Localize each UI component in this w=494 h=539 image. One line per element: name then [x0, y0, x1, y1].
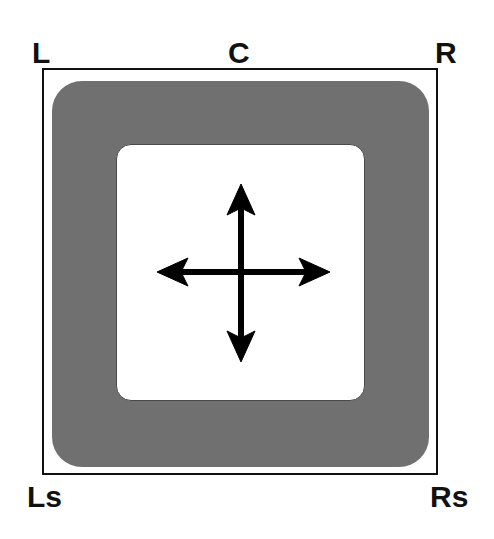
- speaker-label-right-surround: Rs: [430, 482, 468, 512]
- speaker-label-left-surround: Ls: [27, 482, 62, 512]
- speaker-label-right: R: [435, 38, 457, 68]
- speaker-label-left: L: [32, 38, 50, 68]
- speaker-label-center: C: [228, 38, 250, 68]
- four-way-arrows-icon: [0, 0, 494, 539]
